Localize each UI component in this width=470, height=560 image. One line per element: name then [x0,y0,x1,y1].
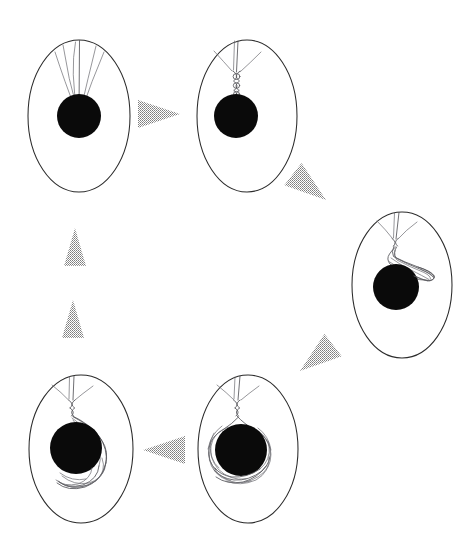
stage-4-nucleus [215,424,267,476]
stage-3-nucleus [373,264,419,310]
stage-1-nucleus [57,94,101,138]
stage-1-group[interactable] [28,40,130,192]
cycle-diagram-canvas [0,0,470,560]
stage-2-group[interactable] [197,40,297,192]
stage-3-group[interactable] [352,212,452,358]
stage-5-nucleus [50,422,102,474]
stage-2-nucleus [214,94,258,138]
stage-4-group[interactable] [198,375,298,523]
stage-5-group[interactable] [29,375,133,523]
figure-root [0,0,470,560]
